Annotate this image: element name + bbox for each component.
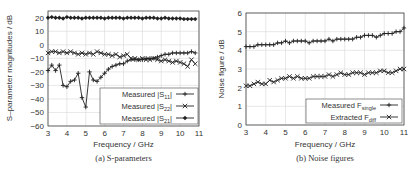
x-tick-label: 4 <box>264 128 269 137</box>
y-tick-labels: 0123456 <box>238 9 243 130</box>
x-tick-label: 11 <box>400 128 409 137</box>
x-tick-label: 8 <box>140 129 145 138</box>
y-tick-label: 20 <box>35 14 44 23</box>
y-tick-label: −50 <box>30 108 44 117</box>
y-tick-label: 0 <box>40 41 45 50</box>
x-tick-label: 7 <box>121 129 126 138</box>
x-tick-label: 10 <box>176 129 185 138</box>
y-tick-label: −60 <box>30 122 44 131</box>
x-tick-labels: 34567891011 <box>244 128 409 137</box>
y-tick-label: −40 <box>30 95 44 104</box>
x-tick-label: 3 <box>46 129 51 138</box>
y-axis-label: S–parameter magnitudes / dB <box>5 15 14 121</box>
y-tick-label: 1 <box>238 102 243 111</box>
x-tick-label: 6 <box>303 128 308 137</box>
y-tick-label: 3 <box>238 65 243 74</box>
x-tick-label: 3 <box>244 128 249 137</box>
figure-caption: (a) S-parameters <box>95 153 151 163</box>
noise-figures-chart: 345678910110123456Frequency / GHzNoise f… <box>217 9 409 163</box>
y-axis-label: Noise figure / dB <box>217 39 226 98</box>
y-tick-label: 0 <box>238 121 243 130</box>
x-axis-label: Frequency / GHz <box>295 140 355 149</box>
series-measured-s21- <box>46 15 198 21</box>
y-tick-label: 6 <box>238 9 243 18</box>
x-tick-label: 8 <box>343 128 348 137</box>
y-tick-label: −20 <box>30 68 44 77</box>
legend: Measured FsingleExtracted Fdiff <box>306 99 402 123</box>
series-measured-s22- <box>46 49 198 68</box>
y-tick-label: −30 <box>30 81 44 90</box>
x-tick-label: 11 <box>195 129 204 138</box>
x-tick-label: 7 <box>323 128 328 137</box>
y-tick-label: 2 <box>238 84 243 93</box>
y-tick-label: 4 <box>238 46 243 55</box>
x-tick-label: 4 <box>65 129 70 138</box>
x-tick-label: 10 <box>380 128 389 137</box>
x-tick-label: 6 <box>102 129 107 138</box>
s-parameters-chart: 3456789101120100−10−20−30−40−50−60Freque… <box>5 11 204 163</box>
x-tick-label: 5 <box>84 129 89 138</box>
y-tick-label: 10 <box>35 27 44 36</box>
x-tick-labels: 34567891011 <box>46 129 204 138</box>
y-tick-labels: 20100−10−20−30−40−50−60 <box>30 14 44 131</box>
x-tick-label: 9 <box>159 129 164 138</box>
figure-caption: (b) Noise figures <box>296 153 354 163</box>
x-axis-label: Frequency / GHz <box>93 140 153 149</box>
figure: 3456789101120100−10−20−30−40−50−60Freque… <box>0 0 420 176</box>
y-tick-label: −10 <box>30 54 44 63</box>
legend: Measured |S11|Measured |S22|Measured |S2… <box>100 88 198 124</box>
x-tick-label: 9 <box>362 128 367 137</box>
x-tick-label: 5 <box>283 128 288 137</box>
y-tick-label: 5 <box>238 28 243 37</box>
